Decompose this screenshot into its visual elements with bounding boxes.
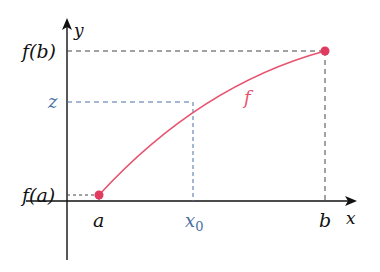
point-b xyxy=(321,47,330,56)
function-curve xyxy=(99,51,325,195)
function-label: f xyxy=(242,87,254,108)
y-axis-label: y xyxy=(73,20,84,40)
z-label: z xyxy=(47,91,58,112)
fb-label: f(b) xyxy=(20,40,56,62)
a-label: a xyxy=(93,209,104,231)
fa-label: f(a) xyxy=(20,184,55,206)
x0-label-main: x xyxy=(185,210,195,231)
point-a xyxy=(95,191,104,200)
x0-label-sub: 0 xyxy=(195,219,203,234)
b-label: b xyxy=(319,209,331,231)
x0-label: x0 xyxy=(185,210,203,234)
x-axis-label: x xyxy=(346,208,356,228)
ivt-diagram: y x f(b) f(a) z a b x0 f xyxy=(0,0,380,272)
